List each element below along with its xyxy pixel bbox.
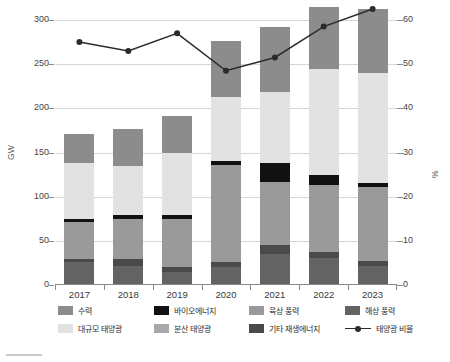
x-tick-mark [250, 285, 251, 290]
legend-item[interactable]: 해상 풍력 [345, 305, 441, 316]
x-tick-mark [153, 285, 154, 290]
y-tick-label-left: 100 [9, 191, 49, 201]
x-axis-label: 2018 [106, 289, 150, 300]
y-tick-label-left: 250 [9, 58, 49, 68]
y-tick-label-left: 200 [9, 102, 49, 112]
legend-color-swatch-icon [58, 306, 73, 315]
line-data-point [223, 68, 229, 74]
renewable-capacity-chart: GW % 300250200150100500 6050403020100 20… [0, 0, 450, 362]
y-tick-label-right: 60 [403, 14, 433, 24]
y-tick-mark-left [48, 153, 54, 154]
y-tick-label-left: 50 [9, 235, 49, 245]
legend-item[interactable]: 대규모 태양광 [58, 323, 154, 334]
legend-color-swatch-icon [154, 324, 169, 333]
x-axis-label: 2021 [253, 289, 297, 300]
line-data-point [370, 6, 376, 12]
y-tick-mark-left [48, 20, 54, 21]
legend-item[interactable]: 수력 [58, 305, 154, 316]
y-tick-mark-left [48, 241, 54, 242]
legend-item[interactable]: 바이오에너지 [154, 305, 250, 316]
line-data-point [76, 39, 82, 45]
y-tick-label-left: 300 [9, 14, 49, 24]
legend-item-label: 육상 풍력 [269, 305, 299, 316]
legend-item-label: 대규모 태양광 [78, 323, 122, 334]
line-data-point [174, 30, 180, 36]
legend-item-label: 태양광 비율 [376, 323, 413, 334]
x-axis-label: 2019 [155, 289, 199, 300]
solar-share-line-series [55, 20, 397, 285]
legend-color-swatch-icon [249, 324, 264, 333]
x-axis-label: 2022 [302, 289, 346, 300]
y-tick-label-right: 0 [403, 279, 433, 289]
legend-color-swatch-icon [154, 306, 169, 315]
y-tick-label-right: 50 [403, 58, 433, 68]
x-axis-label: 2023 [351, 289, 395, 300]
y-tick-mark-right [397, 197, 403, 198]
legend-item[interactable]: 태양광 비율 [345, 323, 441, 334]
legend-item[interactable]: 육상 풍력 [249, 305, 345, 316]
x-tick-mark [348, 285, 349, 290]
legend-item[interactable]: 기타 재생에너지 [249, 323, 345, 334]
y-tick-mark-right [397, 153, 403, 154]
y-tick-mark-right [397, 108, 403, 109]
x-tick-mark [202, 285, 203, 290]
legend-item-label: 기타 재생에너지 [269, 323, 320, 334]
x-axis-baseline [55, 284, 397, 285]
y-tick-mark-left [48, 197, 54, 198]
footer-divider [6, 354, 42, 356]
line-data-point [125, 48, 131, 54]
y-tick-mark-right [397, 20, 403, 21]
y-tick-mark-left [48, 108, 54, 109]
y-tick-label-right: 10 [403, 235, 433, 245]
y-tick-mark-right [397, 241, 403, 242]
y-tick-mark-left [48, 64, 54, 65]
y-tick-mark-right [397, 285, 403, 286]
legend-item-label: 수력 [78, 305, 92, 316]
x-tick-mark [396, 285, 397, 290]
x-tick-mark [104, 285, 105, 290]
y-axis-title-right: % [430, 170, 440, 178]
chart-legend: 수력바이오에너지육상 풍력해상 풍력대규모 태양광분산 태양광기타 재생에너지태… [58, 305, 440, 334]
y-tick-label-right: 20 [403, 191, 433, 201]
y-tick-label-right: 30 [403, 147, 433, 157]
legend-color-swatch-icon [249, 306, 264, 315]
line-data-point [272, 55, 278, 61]
plot-area: 300250200150100500 6050403020100 [55, 20, 397, 285]
legend-item-label: 해상 풍력 [365, 305, 395, 316]
legend-color-swatch-icon [58, 324, 73, 333]
y-tick-label-right: 40 [403, 102, 433, 112]
line-data-point [321, 24, 327, 30]
legend-color-swatch-icon [345, 306, 360, 315]
legend-item-label: 바이오에너지 [174, 305, 216, 316]
legend-item[interactable]: 분산 태양광 [154, 323, 250, 334]
legend-item-label: 분산 태양광 [174, 323, 211, 334]
x-tick-mark [55, 285, 56, 290]
y-tick-mark-left [48, 285, 54, 286]
legend-line-marker-icon [345, 324, 371, 333]
x-axis-label: 2020 [204, 289, 248, 300]
y-tick-mark-right [397, 64, 403, 65]
x-axis-label: 2017 [57, 289, 101, 300]
y-tick-label-left: 150 [9, 147, 49, 157]
x-tick-mark [299, 285, 300, 290]
y-tick-label-left: 0 [9, 279, 49, 289]
